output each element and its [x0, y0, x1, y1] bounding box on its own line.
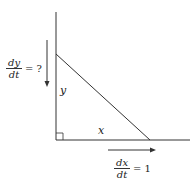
dx-dt-value: = 1 [133, 163, 151, 174]
dx-dt-label: dx dt = 1 [114, 157, 151, 180]
right-angle-marker [56, 133, 63, 140]
dy-dt-label: dy dt = ? [6, 57, 42, 80]
dy-dt-numerator: dy [6, 57, 22, 69]
y-label: y [60, 84, 66, 97]
right-arrowhead-icon [150, 148, 156, 153]
dy-dt-value: = ? [25, 63, 42, 74]
dx-dt-denominator: dt [115, 169, 129, 180]
dy-dt-denominator: dt [7, 69, 21, 80]
diagram-canvas [0, 0, 190, 188]
dx-dt-numerator: dx [114, 157, 130, 169]
x-label: x [98, 124, 104, 137]
down-arrowhead-icon [45, 81, 50, 87]
